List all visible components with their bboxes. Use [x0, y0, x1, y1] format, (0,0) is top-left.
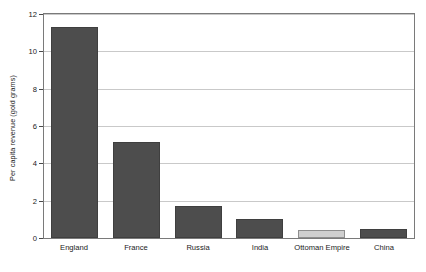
x-axis-tick-label: Russia — [186, 243, 209, 252]
y-axis-tick-label: 6 — [33, 122, 37, 131]
y-axis-tick — [39, 51, 43, 52]
bar-slot — [291, 14, 353, 238]
plot-area: 024681012 — [43, 13, 415, 239]
y-axis-tick — [39, 163, 43, 164]
y-axis-title: Per capita revenue (gold grams) — [6, 12, 20, 244]
bar[interactable] — [51, 27, 98, 238]
y-axis-tick-label: 0 — [33, 234, 37, 243]
bar[interactable] — [298, 230, 345, 238]
bar[interactable] — [113, 142, 160, 238]
bar[interactable] — [360, 229, 407, 238]
y-axis-tick-label: 10 — [29, 47, 37, 56]
bar-slot — [352, 14, 414, 238]
y-axis-tick — [39, 89, 43, 90]
y-axis-tick — [39, 238, 43, 239]
y-axis-tick — [39, 201, 43, 202]
y-axis-tick-label: 12 — [29, 10, 37, 19]
bar-slot — [167, 14, 229, 238]
x-axis-labels: EnglandFranceRussiaIndiaOttoman EmpireCh… — [43, 243, 415, 257]
bar[interactable] — [175, 206, 222, 238]
y-axis-tick — [39, 126, 43, 127]
bar-slot — [106, 14, 168, 238]
y-axis-tick-label: 2 — [33, 196, 37, 205]
x-axis-tick-label: Ottoman Empire — [294, 243, 349, 252]
bar-chart-figure: Per capita revenue (gold grams) 02468101… — [0, 0, 426, 272]
x-axis-tick-label: France — [124, 243, 148, 252]
bars-layer — [44, 14, 414, 238]
y-axis-tick-label: 4 — [33, 159, 37, 168]
x-axis-tick-label: China — [374, 243, 394, 252]
y-axis-tick-label: 8 — [33, 84, 37, 93]
bar-slot — [229, 14, 291, 238]
y-axis-tick — [39, 14, 43, 15]
bar[interactable] — [236, 219, 283, 238]
x-axis-tick-label: India — [252, 243, 268, 252]
x-axis-tick-label: England — [60, 243, 88, 252]
bar-slot — [44, 14, 106, 238]
